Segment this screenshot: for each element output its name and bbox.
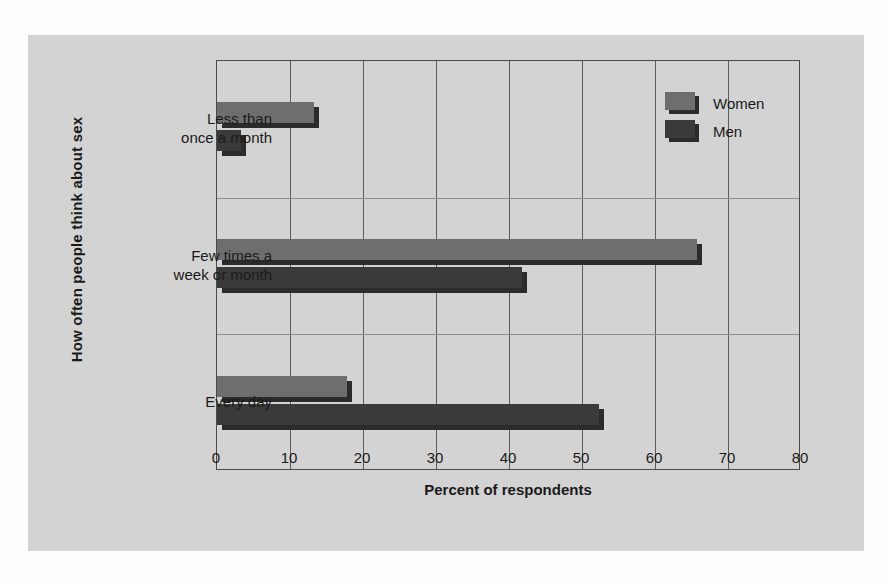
x-tick-label-50: 50 xyxy=(561,449,601,466)
bar-women-1[interactable] xyxy=(217,239,702,265)
category-separator-1 xyxy=(217,198,799,199)
x-tick-label-20: 20 xyxy=(342,449,382,466)
x-tick-label-60: 60 xyxy=(634,449,674,466)
legend-item-men[interactable]: Men xyxy=(665,117,764,145)
chart-canvas: How often people think about sex Women M… xyxy=(28,35,864,551)
plot-area: Women Men xyxy=(216,60,800,470)
category-separator-2 xyxy=(217,334,799,335)
x-axis-title: Percent of respondents xyxy=(216,481,800,498)
x-tick-label-70: 70 xyxy=(707,449,747,466)
bar-men-2[interactable] xyxy=(217,404,604,430)
x-tick-label-10: 10 xyxy=(269,449,309,466)
chart-page: How often people think about sex Women M… xyxy=(0,0,890,582)
x-tick-label-30: 30 xyxy=(415,449,455,466)
x-tick-label-0: 0 xyxy=(196,449,236,466)
gridline-x-60 xyxy=(655,61,656,469)
category-label-1: Few times aweek or month xyxy=(32,246,272,284)
x-tick-label-80: 80 xyxy=(780,449,820,466)
chart-legend: Women Men xyxy=(665,89,764,145)
y-axis-title: How often people think about sex xyxy=(68,110,85,370)
x-tick-label-40: 40 xyxy=(488,449,528,466)
legend-label-men: Men xyxy=(713,123,742,140)
legend-swatch-men-icon xyxy=(665,120,699,142)
legend-item-women[interactable]: Women xyxy=(665,89,764,117)
legend-label-women: Women xyxy=(713,95,764,112)
category-label-0: Less thanonce a month xyxy=(32,109,272,147)
category-label-2: Every day xyxy=(32,392,272,411)
legend-swatch-women-icon xyxy=(665,92,699,114)
